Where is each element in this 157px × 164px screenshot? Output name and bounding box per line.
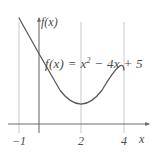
y-axis-label: f(x) [41, 16, 58, 28]
x-axis-label: x [139, 133, 144, 145]
parabola-figure: f(x) x f(x) = x2 − 4x + 5 −1 2 4 [0, 0, 157, 164]
equation-lhs: f(x) = [45, 56, 80, 71]
equation-rest: − 4x + 5 [91, 56, 143, 71]
x-tick-label: −1 [9, 135, 29, 147]
x-tick-label: 2 [71, 135, 91, 147]
gridlines [19, 22, 124, 133]
x-tick-label: 4 [114, 135, 134, 147]
equation-annotation: f(x) = x2 − 4x + 5 [45, 57, 143, 70]
